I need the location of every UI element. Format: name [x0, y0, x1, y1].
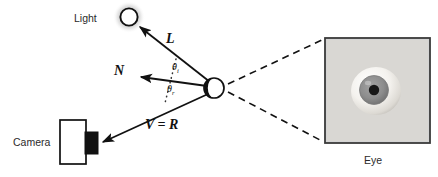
- vector-L-label: L: [166, 32, 175, 46]
- theta-incident-label: θi: [172, 62, 179, 75]
- camera-lens: [85, 132, 98, 154]
- diagram-canvas: [0, 0, 438, 177]
- theta-incident-subscript: i: [177, 67, 179, 74]
- eye-label: Eye: [364, 155, 382, 166]
- vector-N-label: N: [114, 64, 124, 78]
- camera-label: Camera: [13, 137, 50, 148]
- vector-V-equals-R-label: V = R: [145, 118, 178, 132]
- reflection-diagram-figure: Light Camera Eye L N V = R θi θr: [0, 0, 438, 177]
- light-label: Light: [74, 13, 97, 24]
- camera-body: [60, 120, 86, 164]
- callout-dashed-line-bottom: [228, 92, 322, 141]
- eye-specular-highlight: [365, 81, 371, 85]
- theta-reflected-label: θr: [167, 84, 174, 97]
- theta-reflected-subscript: r: [172, 89, 175, 96]
- eye-pupil: [369, 85, 379, 95]
- callout-dashed-line-top: [228, 40, 322, 84]
- light-source-icon: [120, 8, 137, 25]
